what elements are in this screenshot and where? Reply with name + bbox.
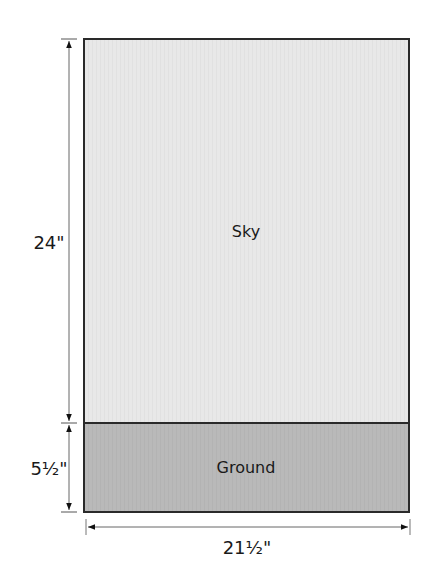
sky-height-dimension: 24": [33, 39, 77, 423]
quilt-layout-diagram: Sky Ground 24" 5½" 21½": [0, 0, 431, 581]
sky-label: Sky: [232, 222, 260, 241]
ground-label: Ground: [217, 458, 276, 477]
ground-height-dimension: 5½": [30, 425, 77, 512]
width-label: 21½": [223, 537, 272, 558]
ground-height-label: 5½": [30, 458, 67, 479]
width-dimension: 21½": [86, 519, 410, 558]
sky-section: Sky: [84, 39, 409, 423]
ground-section: Ground: [84, 423, 409, 512]
sky-height-label: 24": [33, 232, 64, 253]
